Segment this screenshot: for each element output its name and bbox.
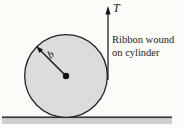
tension-arrowhead-icon: [105, 6, 110, 15]
caption: Ribbon wound on cylinder: [112, 33, 174, 59]
tension-label: T: [113, 2, 120, 14]
physics-diagram: T b Ribbon wound on cylinder: [0, 0, 183, 128]
caption-line-2: on cylinder: [112, 46, 174, 59]
ground-surface: [2, 118, 172, 124]
caption-line-1: Ribbon wound: [112, 33, 174, 46]
center-dot: [63, 73, 69, 79]
ground-line: [2, 116, 172, 118]
diagram-canvas: [0, 0, 183, 128]
